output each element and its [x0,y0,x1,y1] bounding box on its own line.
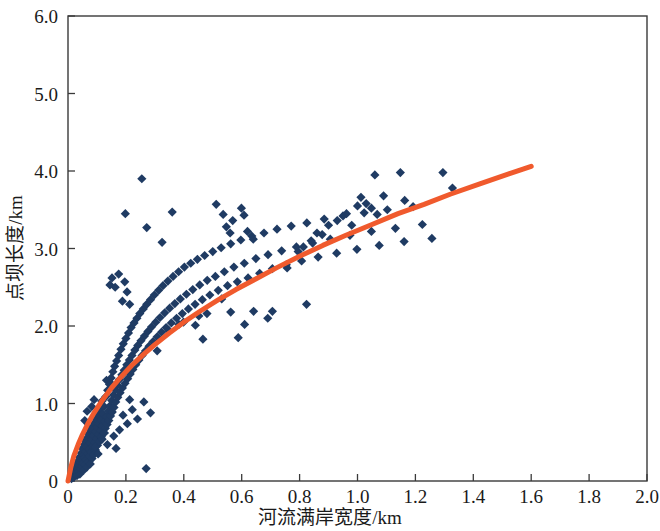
x-tick-label: 1.6 [519,486,543,507]
x-tick-label: 0.8 [288,486,312,507]
y-tick-label: 4.0 [34,161,58,182]
y-tick-label: 1.0 [34,394,58,415]
scatter-plot-svg: 00.20.40.60.81.01.21.41.61.82.0 01.02.03… [0,0,660,531]
x-tick-label: 0.4 [172,486,196,507]
x-tick-label: 2.0 [635,486,659,507]
x-tick-label: 1.0 [346,486,370,507]
x-tick-label: 0.6 [230,486,254,507]
y-tick-label: 3.0 [34,239,58,260]
x-tick-label: 0 [63,486,73,507]
y-tick-label: 0 [49,471,59,492]
y-axis-title: 点坝长度/km [5,195,26,301]
chart-figure: 00.20.40.60.81.01.21.41.61.82.0 01.02.03… [0,0,660,531]
x-axis-title: 河流满岸宽度/km [258,507,402,528]
y-tick-label: 6.0 [34,6,58,27]
y-tick-label: 2.0 [34,316,58,337]
x-tick-label: 1.4 [461,486,485,507]
y-tick-label: 5.0 [34,84,58,105]
x-tick-label: 1.2 [404,486,428,507]
x-tick-label: 1.8 [577,486,601,507]
x-tick-label: 0.2 [114,486,138,507]
